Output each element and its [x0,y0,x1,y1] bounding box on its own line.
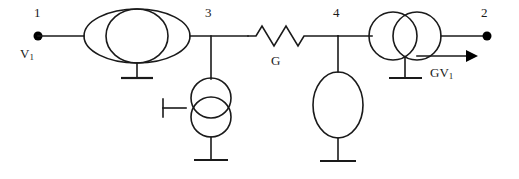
label-node-1: 1 [34,6,41,19]
label-node-3: 3 [205,6,212,19]
label-dependent-source: GV1 [430,66,453,79]
label-dependent-source-text: GV [430,65,449,80]
label-conductance-G: G [271,54,280,67]
schematic-canvas: 1 V1 3 G 4 2 GV1 [0,0,519,179]
current-source-upper-circle [191,78,231,118]
voltage-source-inner-ellipse [106,9,168,63]
current-arrow-head [466,50,478,62]
label-dependent-source-subscript: 1 [449,71,454,81]
label-node-4: 4 [333,6,340,19]
label-node-2: 2 [481,6,488,19]
label-source-voltage: V1 [20,47,34,60]
node-2-terminal-dot [483,32,492,41]
shunt-ellipse-element [313,72,363,138]
label-source-voltage-subscript: 1 [29,52,34,62]
resistor-G-zigzag [248,26,338,46]
current-source-lower-circle [191,97,231,137]
voltage-source-outer-ellipse [84,9,190,63]
circuit-schematic [0,0,519,179]
label-source-voltage-text: V [20,46,29,61]
